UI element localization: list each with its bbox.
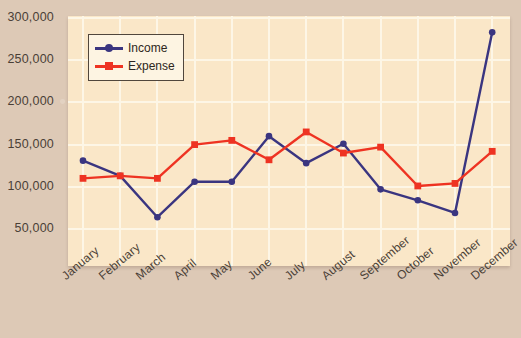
data-point-expense-may[interactable] (228, 137, 235, 144)
data-point-expense-september[interactable] (377, 144, 384, 151)
data-point-expense-march[interactable] (154, 175, 161, 182)
legend-swatch-income (94, 42, 124, 54)
data-point-income-march[interactable] (154, 214, 161, 221)
data-point-income-october[interactable] (415, 197, 422, 204)
data-point-income-november[interactable] (452, 210, 459, 217)
data-point-income-december[interactable] (489, 29, 496, 36)
data-point-income-may[interactable] (229, 178, 236, 185)
series-line-expense (83, 132, 492, 186)
data-point-expense-july[interactable] (303, 129, 310, 136)
data-point-expense-february[interactable] (117, 172, 124, 179)
series-layer (0, 0, 521, 338)
data-point-income-june[interactable] (266, 133, 273, 140)
data-point-income-september[interactable] (377, 186, 384, 193)
data-point-income-july[interactable] (303, 160, 310, 167)
legend: Income Expense (88, 34, 184, 81)
legend-item-income[interactable]: Income (94, 39, 178, 57)
legend-swatch-expense (94, 60, 124, 72)
data-point-expense-august[interactable] (340, 150, 347, 157)
data-point-expense-april[interactable] (191, 141, 198, 148)
data-point-expense-december[interactable] (489, 148, 496, 155)
line-chart: 50,000100,000150,000200,000250,000300,00… (0, 0, 521, 338)
data-point-expense-november[interactable] (452, 180, 459, 187)
data-point-income-august[interactable] (340, 140, 347, 147)
legend-label-income: Income (128, 41, 167, 55)
data-point-income-april[interactable] (191, 178, 198, 185)
data-point-expense-october[interactable] (414, 183, 421, 190)
data-point-expense-january[interactable] (80, 175, 87, 182)
legend-label-expense: Expense (128, 59, 175, 73)
data-point-income-january[interactable] (80, 157, 87, 164)
legend-item-expense[interactable]: Expense (94, 57, 178, 75)
data-point-expense-june[interactable] (266, 156, 273, 163)
